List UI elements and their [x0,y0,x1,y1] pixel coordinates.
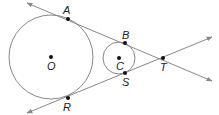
point-a [66,17,70,21]
label-s: S [122,76,130,88]
point-b [123,41,127,45]
label-b: B [122,29,129,41]
label-a: A [62,4,70,16]
label-o: O [47,60,56,72]
geometry-diagram: ABOCTSR [0,0,219,115]
point-r [66,96,70,100]
point-t [161,56,165,60]
label-c: C [116,60,124,72]
point-o [49,55,53,59]
point-s [123,71,127,75]
label-r: R [63,101,71,113]
tangent-RST-line [27,37,212,113]
label-t: T [160,61,168,73]
